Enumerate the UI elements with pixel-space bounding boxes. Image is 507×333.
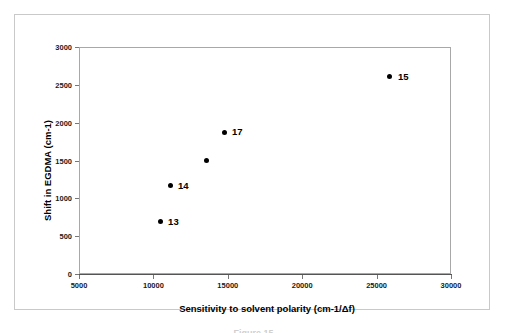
y-tick-mark — [75, 123, 79, 124]
plot-area — [79, 47, 451, 274]
figure-caption: Figure 15 — [0, 322, 507, 333]
y-tick-mark — [75, 47, 79, 48]
x-tick-label: 25000 — [366, 281, 387, 290]
y-tick-label: 500 — [59, 232, 72, 241]
data-point — [158, 219, 163, 224]
x-tick-mark — [451, 275, 452, 279]
x-axis-title: Sensitivity to solvent polarity (cm-1/Δf… — [29, 303, 505, 314]
x-tick-label: 5000 — [71, 281, 88, 290]
y-tick-label: 2500 — [55, 80, 72, 89]
y-tick-mark — [75, 236, 79, 237]
data-point-label: 17 — [232, 126, 243, 137]
y-axis-title: Shift in EGDMA (cm-1) — [39, 61, 55, 279]
y-tick-mark — [75, 198, 79, 199]
x-tick-mark — [377, 275, 378, 279]
y-tick-mark — [75, 85, 79, 86]
x-tick-mark — [153, 275, 154, 279]
x-tick-label: 20000 — [292, 281, 313, 290]
y-tick-mark — [75, 161, 79, 162]
figure-root: 050010001500200025003000 500010000150002… — [0, 0, 507, 333]
x-tick-mark — [302, 275, 303, 279]
x-tick-label: 10000 — [143, 281, 164, 290]
data-point-label: 14 — [178, 179, 189, 190]
data-point-label: 13 — [168, 215, 179, 226]
y-tick-label: 2000 — [55, 118, 72, 127]
x-tick-label: 15000 — [217, 281, 238, 290]
data-point — [168, 183, 173, 188]
x-tick-label: 30000 — [441, 281, 462, 290]
data-point-label: 15 — [398, 70, 409, 81]
data-point — [222, 130, 227, 135]
x-tick-mark — [228, 275, 229, 279]
y-tick-label: 1500 — [55, 156, 72, 165]
x-tick-mark — [79, 275, 80, 279]
y-tick-label: 0 — [68, 270, 72, 279]
y-axis-title-text: Shift in EGDMA (cm-1) — [42, 120, 53, 221]
y-tick-label: 1000 — [55, 194, 72, 203]
x-axis-line — [79, 274, 452, 275]
y-tick-label: 3000 — [55, 43, 72, 52]
chart-frame: 050010001500200025003000 500010000150002… — [14, 14, 490, 310]
